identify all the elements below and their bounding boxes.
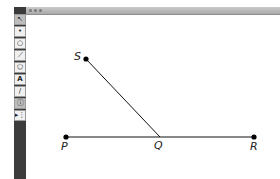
circle-tool-button[interactable]: ○ [14,38,26,49]
line-tool-button[interactable]: ⟋ [14,50,26,61]
custom-tool-button[interactable]: ▸⋮ [14,110,26,121]
point-icon: • [18,28,22,35]
polygon-icon: ⬠ [17,64,23,71]
close-button[interactable] [29,9,32,12]
point-s[interactable] [83,56,88,61]
select-tool-button[interactable]: ↖ [14,14,26,25]
point-r[interactable] [251,134,256,139]
text-icon: A [17,76,22,83]
info-icon: ⓘ [17,100,24,107]
circle-icon: ○ [17,40,23,47]
zoom-button[interactable] [39,9,42,12]
label-p: P [61,140,68,153]
text-tool-button[interactable]: A [14,74,26,85]
marker-tool-button[interactable]: / [14,86,26,97]
point-tool-button[interactable]: • [14,26,26,37]
minimize-button[interactable] [34,9,37,12]
title-bar-block [14,7,26,14]
marker-icon: / [19,88,21,95]
point-p[interactable] [63,134,68,139]
line-icon: ⟋ [18,52,23,59]
sketch-canvas[interactable] [26,15,280,179]
title-bar [14,7,280,15]
arrow-icon: ↖ [17,16,23,23]
polygon-tool-button[interactable]: ⬠ [14,62,26,73]
info-tool-button[interactable]: ⓘ [14,98,26,109]
label-r: R [250,140,258,153]
label-q: Q [154,139,163,152]
segment-sq[interactable] [86,59,160,137]
custom-tools-icon: ▸⋮ [15,112,26,119]
toolbar: ↖ • ○ ⟋ ⬠ A / ⓘ ▸⋮ [14,14,26,179]
label-s: S [74,50,81,63]
